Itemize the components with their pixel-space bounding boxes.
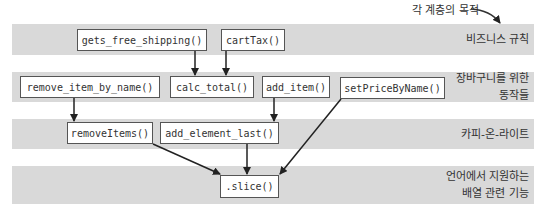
function-remove-items: removeItems() [67,122,153,144]
function-gets-free-shipping: gets_free_shipping() [77,29,207,51]
function-add-item: add_item() [262,76,330,98]
function-cart-tax: cartTax() [221,29,285,51]
function-calc-total: calc_total() [170,76,254,98]
function-add-element-last: add_element_last() [160,122,279,144]
function-remove-item-by-name: remove_item_by_name() [20,76,160,98]
function-set-price-by-name: setPriceByName() [340,77,445,99]
annotation-arrow-icon [471,9,500,23]
function-slice: .slice() [220,175,279,198]
